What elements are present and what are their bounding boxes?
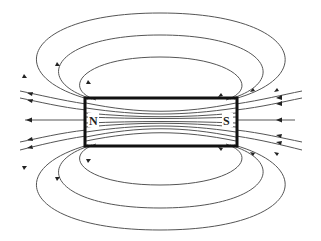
arrow-icon — [55, 62, 60, 66]
arrow-icon — [218, 93, 223, 97]
arrow-icon — [22, 166, 27, 170]
arrow-icon — [86, 159, 91, 163]
field-loops-below — [22, 144, 285, 230]
arrow-icon — [26, 118, 32, 123]
open-field-lines-right — [236, 91, 302, 150]
field-loops-above — [22, 13, 285, 100]
arrow-icon — [218, 147, 223, 151]
internal-field-lines — [86, 103, 236, 141]
magnetic-field-diagram: N S — [0, 0, 321, 241]
arrow-icon — [22, 74, 27, 78]
north-pole-label: N — [89, 114, 98, 128]
arrow-icon — [274, 152, 279, 156]
south-pole-label: S — [223, 114, 230, 128]
open-field-lines-left — [20, 91, 86, 150]
arrow-icon — [276, 118, 282, 123]
arrow-icon — [274, 88, 279, 92]
arrow-icon — [55, 177, 60, 181]
arrow-icon — [86, 80, 91, 84]
